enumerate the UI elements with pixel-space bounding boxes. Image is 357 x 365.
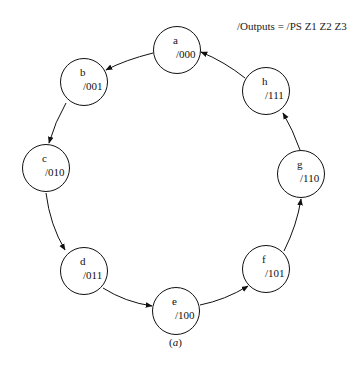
state-label: f xyxy=(262,253,266,265)
state-output: /000 xyxy=(176,48,196,60)
state-g: g /110 xyxy=(277,150,325,198)
state-f: f /101 xyxy=(242,245,290,293)
state-label: d xyxy=(80,255,86,267)
state-output: /101 xyxy=(265,267,285,279)
caption-close-paren: ) xyxy=(178,336,182,348)
state-output: /010 xyxy=(45,166,65,178)
transition-a-to-b xyxy=(106,53,153,70)
transition-b-to-c xyxy=(49,103,66,143)
state-label: g xyxy=(297,158,303,170)
transition-f-to-g xyxy=(284,199,301,251)
state-d: d /011 xyxy=(60,247,108,295)
state-output: /111 xyxy=(265,89,284,101)
figure-caption: (a) xyxy=(169,336,182,348)
state-label: e xyxy=(172,295,177,307)
state-label: h xyxy=(262,75,268,87)
state-output: /100 xyxy=(175,309,195,321)
transition-h-to-a xyxy=(201,52,245,78)
state-label: c xyxy=(42,152,47,164)
state-e: e /100 xyxy=(152,287,200,335)
state-output: /001 xyxy=(83,80,103,92)
state-label: b xyxy=(80,66,86,78)
state-a: a /000 xyxy=(153,26,201,74)
state-label: a xyxy=(173,34,178,46)
state-output: /011 xyxy=(83,269,102,281)
output-legend: /Outputs = /PS Z1 Z2 Z3 xyxy=(237,20,347,32)
transition-c-to-d xyxy=(46,193,65,250)
state-b: b /001 xyxy=(60,58,108,106)
state-c: c /010 xyxy=(22,144,70,192)
transition-d-to-e xyxy=(103,288,152,306)
transition-e-to-f xyxy=(200,286,248,305)
state-output: /110 xyxy=(300,172,319,184)
state-h: h /111 xyxy=(242,67,290,115)
transition-g-to-h xyxy=(283,113,300,150)
